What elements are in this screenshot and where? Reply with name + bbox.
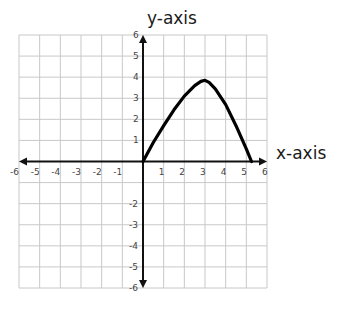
x-tick-label: -4 [51,167,60,177]
x-tick-label: -5 [31,167,40,177]
x-tick-label: 6 [262,167,268,177]
x-tick-label: 2 [179,167,185,177]
y-tick-label: 6 [133,30,139,40]
x-axis-title: x-axis [276,143,326,163]
arrow-right-icon [259,158,267,166]
y-tick-label: -2 [129,199,138,209]
x-tick-label: 1 [159,167,165,177]
y-tick-label: -5 [129,262,138,272]
arrow-up-icon [139,35,147,43]
y-tick-label: -6 [129,283,138,293]
x-tick-label: -3 [72,167,81,177]
x-tick-label: -2 [93,167,102,177]
y-axis-title: y-axis [147,8,197,28]
y-tick-label: 1 [133,135,139,145]
data-curve [143,80,252,161]
y-tick-label: 5 [133,51,139,61]
y-tick-label: 4 [133,72,139,82]
x-tick-label: 4 [221,167,227,177]
x-tick-label: 5 [241,167,247,177]
x-tick-label: -1 [113,167,122,177]
y-tick-label: 2 [133,114,139,124]
arrow-down-icon [139,280,147,288]
arrow-left-icon [19,158,27,166]
y-tick-label: -4 [129,241,138,251]
y-tick-label: -3 [129,220,138,230]
x-tick-label: 3 [200,167,206,177]
x-tick-label: -6 [10,167,19,177]
y-tick-label: 3 [133,93,139,103]
